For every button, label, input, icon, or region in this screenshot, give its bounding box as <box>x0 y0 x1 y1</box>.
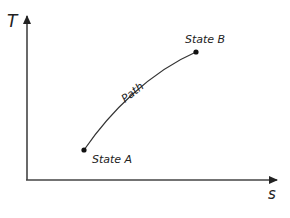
x-axis-label: s <box>268 185 276 203</box>
path-label: Path <box>119 80 146 105</box>
state-a-label: State A <box>92 153 132 166</box>
process-path <box>84 52 196 150</box>
y-axis-label: T <box>7 11 19 31</box>
ts-diagram: T s State A State B Path <box>0 0 290 218</box>
state-a-point <box>81 147 86 152</box>
state-b-point <box>193 49 198 54</box>
state-b-label: State B <box>185 33 225 46</box>
